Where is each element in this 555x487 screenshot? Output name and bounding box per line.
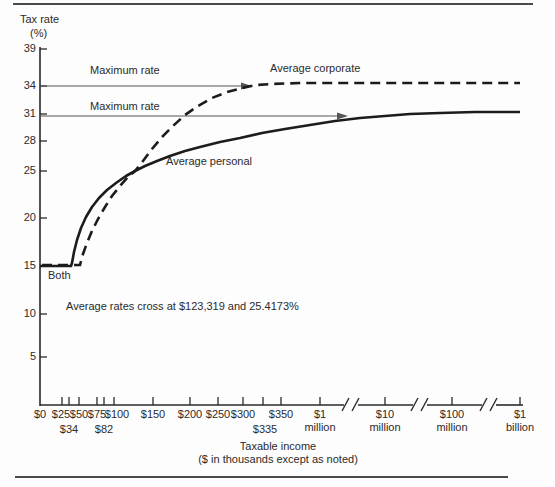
axis-break-slash xyxy=(490,398,497,411)
axis-break-slash xyxy=(352,398,359,411)
plot-svg xyxy=(0,0,555,487)
average-personal-curve xyxy=(40,112,520,266)
figure-average-tax-rates: Tax rate (%) Maximum rate Maximum rate A… xyxy=(0,0,555,487)
average-corporate-curve xyxy=(42,83,520,265)
axis-break-slash xyxy=(421,398,428,411)
